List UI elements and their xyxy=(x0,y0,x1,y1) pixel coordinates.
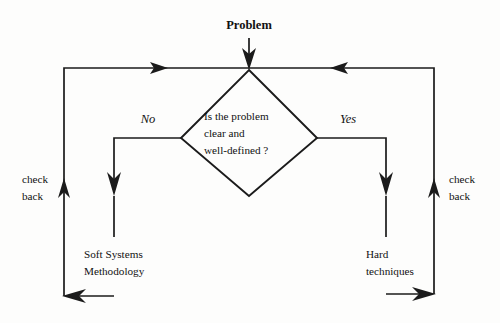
flowchart-canvas: Problem Is the problem clear and well-de… xyxy=(0,0,500,323)
right-feedback-label-line-2: back xyxy=(449,190,471,202)
problem-title-label: Problem xyxy=(226,18,272,32)
flowchart-diagram: Problem Is the problem clear and well-de… xyxy=(0,0,500,323)
left-feedback-rail xyxy=(64,68,249,296)
right-outcome-line-1: Hard xyxy=(366,248,389,260)
right-feedback-label-line-1: check xyxy=(449,173,475,185)
no-branch-label: No xyxy=(140,112,156,126)
decision-diamond xyxy=(181,70,317,196)
right-outcome-line-2: techniques xyxy=(366,265,414,277)
decision-line-2: clear and xyxy=(204,127,245,139)
yes-branch-label: Yes xyxy=(340,112,356,126)
left-outcome-line-2: Methodology xyxy=(84,265,145,277)
yes-branch-path xyxy=(317,138,386,186)
no-branch-path xyxy=(114,138,181,186)
right-feedback-rail xyxy=(249,68,434,294)
left-feedback-label-line-2: back xyxy=(22,190,44,202)
left-feedback-label-line-1: check xyxy=(22,173,48,185)
decision-line-3: well-defined ? xyxy=(204,144,268,156)
left-outcome-line-1: Soft Systems xyxy=(84,248,143,260)
decision-line-1: Is the problem xyxy=(204,110,269,122)
